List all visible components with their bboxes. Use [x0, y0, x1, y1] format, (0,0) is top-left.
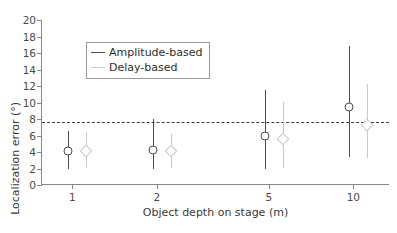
x-axis-title: Object depth on stage (m) — [143, 206, 288, 219]
y-tick-label-4: 4 — [29, 146, 36, 158]
y-axis-title: Localization error (°) — [9, 102, 22, 215]
y-tick-0 — [37, 185, 42, 186]
legend-item-delay-based: Delay-based — [91, 60, 203, 75]
data-point-marker — [165, 145, 178, 158]
y-tick-label-18: 18 — [23, 31, 36, 43]
legend-label-delay-based: Delay-based — [109, 61, 178, 75]
y-tick-label-0: 0 — [29, 179, 36, 191]
data-point-marker — [361, 118, 374, 131]
data-point-marker — [80, 145, 93, 158]
legend-swatch-delay-based — [91, 67, 105, 68]
legend: Amplitude-based Delay-based — [86, 42, 210, 79]
y-tick-label-6: 6 — [29, 130, 36, 142]
legend-item-amplitude-based: Amplitude-based — [91, 45, 203, 60]
x-tick-label-2: 2 — [154, 191, 161, 203]
y-tick-label-2: 2 — [29, 163, 36, 175]
x-tick-5 — [269, 184, 270, 189]
x-tick-1 — [72, 184, 73, 189]
x-tick-10 — [353, 184, 354, 189]
y-tick-label-12: 12 — [23, 80, 36, 92]
y-tick-label-20: 20 — [23, 14, 36, 26]
plot-area: 02468101214161820 12510 Localization err… — [41, 20, 389, 185]
data-point-marker — [276, 132, 289, 145]
y-tick-label-10: 10 — [23, 97, 36, 109]
figure-container: 02468101214161820 12510 Localization err… — [0, 0, 397, 233]
x-tick-label-5: 5 — [265, 191, 272, 203]
y-tick-label-16: 16 — [23, 47, 36, 59]
x-tick-2 — [157, 184, 158, 189]
y-tick-label-14: 14 — [23, 64, 36, 76]
x-tick-label-1: 1 — [69, 191, 76, 203]
y-tick-label-8: 8 — [29, 113, 36, 125]
legend-swatch-amplitude-based — [91, 52, 105, 53]
x-tick-label-10: 10 — [347, 191, 360, 203]
legend-label-amplitude-based: Amplitude-based — [109, 46, 203, 60]
